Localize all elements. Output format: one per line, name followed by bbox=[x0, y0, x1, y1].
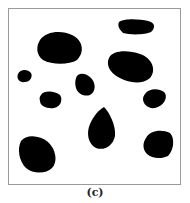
blob bbox=[108, 51, 153, 82]
figure-caption: (c) bbox=[0, 186, 190, 199]
blob bbox=[144, 131, 174, 158]
blob bbox=[143, 89, 166, 108]
blob bbox=[40, 92, 62, 109]
blob bbox=[75, 74, 94, 96]
blob bbox=[17, 70, 31, 82]
blob bbox=[118, 19, 154, 34]
blob bbox=[37, 32, 82, 64]
segmentation-mask bbox=[0, 0, 190, 203]
blob bbox=[88, 107, 115, 149]
blob bbox=[19, 136, 56, 172]
